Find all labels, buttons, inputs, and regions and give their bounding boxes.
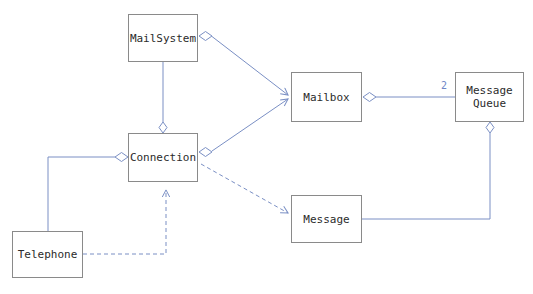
- edge-mailbox-messagequeue: [363, 93, 455, 102]
- node-label: Message Queue: [466, 84, 512, 110]
- node-mailsystem[interactable]: MailSystem: [128, 14, 198, 62]
- edge-connection-mailbox: [199, 99, 288, 157]
- aggregation-diamond-icon: [159, 122, 167, 133]
- node-message[interactable]: Message: [291, 195, 362, 243]
- node-mailbox[interactable]: Mailbox: [291, 72, 362, 122]
- node-label: Message: [303, 213, 349, 226]
- aggregation-diamond-icon: [199, 32, 212, 41]
- aggregation-diamond-icon: [486, 122, 494, 133]
- node-label: Connection: [130, 151, 196, 164]
- multiplicity-label-message-queue: 2: [441, 80, 447, 91]
- node-label: Telephone: [18, 248, 78, 261]
- edge-messagequeue-message: [362, 122, 494, 219]
- aggregation-diamond-icon: [363, 93, 376, 102]
- node-message-queue[interactable]: Message Queue: [455, 72, 524, 122]
- edge-mailsystem-connection: [159, 62, 167, 133]
- edge-telephone-connection-dependency: [83, 190, 166, 254]
- edge-connection-message-dependency: [201, 164, 288, 213]
- edge-mailsystem-mailbox: [199, 32, 288, 96]
- aggregation-diamond-icon: [199, 148, 212, 157]
- edge-telephone-connection: [48, 153, 128, 232]
- node-label: Mailbox: [303, 91, 349, 104]
- aggregation-diamond-icon: [115, 153, 128, 162]
- uml-class-diagram: MailSystem Mailbox Message Queue Connect…: [0, 0, 533, 294]
- node-connection[interactable]: Connection: [128, 133, 198, 182]
- node-telephone[interactable]: Telephone: [12, 231, 83, 278]
- node-label: MailSystem: [130, 32, 196, 45]
